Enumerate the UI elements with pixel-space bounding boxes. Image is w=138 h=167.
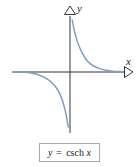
y-axis-label: y	[77, 3, 82, 14]
equation-lhs: y	[48, 147, 52, 158]
curve-branch-positive	[72, 20, 121, 72]
equation-function: csch	[65, 147, 84, 158]
y-axis-arrowhead-icon	[65, 6, 76, 15]
plot-canvas	[0, 0, 138, 167]
equation-argument: x	[86, 147, 90, 158]
csch-graph-figure: y x y = csch x	[0, 0, 138, 167]
x-axis-label: x	[126, 56, 131, 67]
x-axis-arrowhead-icon	[125, 67, 134, 78]
equation-text: y = csch x	[48, 148, 91, 158]
equation-label-box: y = csch x	[39, 143, 100, 162]
curve-branch-negative	[21, 72, 68, 127]
equation-operator: =	[55, 147, 63, 158]
